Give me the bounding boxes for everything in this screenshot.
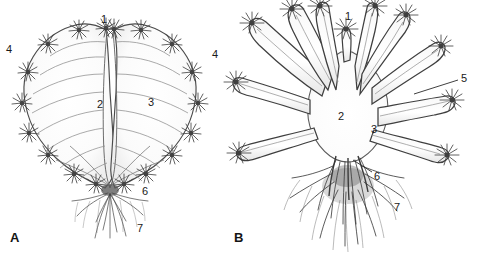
panel-b: 1 4 5 2 3 6 7 B [200, 0, 478, 259]
callout-b-5: 5 [461, 73, 467, 84]
root-mass [284, 156, 412, 252]
panel-letter-a: A [10, 231, 19, 244]
callout-b-6: 6 [374, 171, 380, 182]
callout-b-7: 7 [394, 202, 400, 213]
panel-b-drawing [200, 0, 478, 259]
leader-line-5 [414, 80, 458, 94]
callout-a-7: 7 [137, 223, 143, 234]
callout-b-1: 1 [345, 11, 351, 22]
callout-b-3: 3 [371, 124, 377, 135]
panel-a: 1 4 2 3 6 7 A [0, 0, 222, 259]
callout-a-4: 4 [6, 44, 12, 55]
panel-a-drawing [0, 0, 222, 259]
panel-letter-b: B [234, 231, 243, 244]
callout-a-6: 6 [142, 186, 148, 197]
callout-a-2: 2 [97, 99, 103, 110]
callout-b-2: 2 [338, 111, 344, 122]
callout-a-1: 1 [101, 14, 107, 25]
figure-canvas: 1 4 2 3 6 7 A [0, 0, 478, 259]
callout-b-4: 4 [212, 49, 218, 60]
callout-a-3: 3 [148, 97, 154, 108]
